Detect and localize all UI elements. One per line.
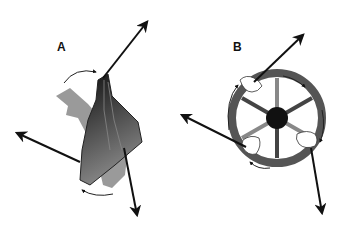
wheel-force-arrow-down (311, 148, 322, 213)
scapula-dark-shape (80, 74, 142, 185)
panel-a-scapula (17, 22, 147, 215)
wheel-hub (266, 107, 288, 129)
diagram-canvas (0, 0, 349, 230)
rotation-arc-top (64, 71, 96, 83)
panel-b-wheel (182, 35, 324, 213)
force-arrow-up-right (103, 22, 147, 78)
force-arrow-left (17, 133, 80, 162)
rotation-arc-bottom (82, 190, 113, 195)
force-arrow-down (124, 148, 137, 215)
